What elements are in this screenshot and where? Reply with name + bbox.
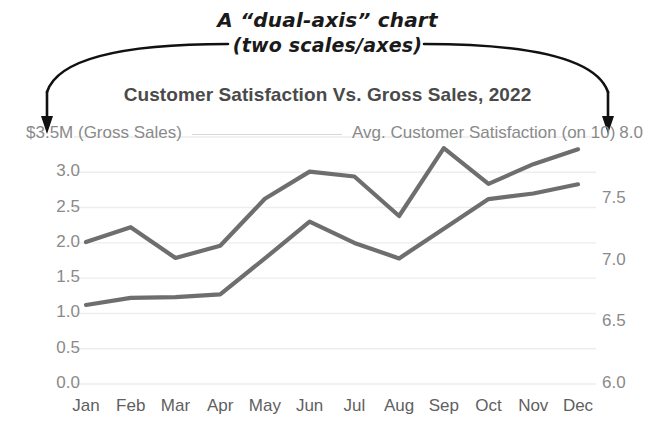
y-axis-left-tick: 3.0 (22, 161, 80, 181)
chart-page: A “dual-axis” chart (two scales/axes) Cu… (0, 0, 655, 442)
y-axis-left-tick: 2.0 (22, 232, 80, 252)
caption-divider (192, 134, 342, 135)
y-axis-left-tick: 1.5 (22, 267, 80, 287)
y-axis-left-tick: 2.5 (22, 197, 80, 217)
left-axis-caption: $3.5M (Gross Sales) (26, 123, 182, 143)
page-title: Customer Satisfaction Vs. Gross Sales, 2… (0, 84, 655, 106)
axis-caption-row: $3.5M (Gross Sales) Avg. Customer Satisf… (26, 120, 643, 146)
right-axis-top-value: 8.0 (619, 123, 643, 143)
y-axis-left-tick: 0.0 (22, 373, 80, 393)
plot-svg (0, 0, 655, 442)
y-axis-right-tick: 7.5 (602, 188, 652, 208)
annotation-text: A “dual-axis” chart (two scales/axes) (0, 8, 655, 58)
y-axis-right-tick: 6.5 (602, 311, 652, 331)
right-axis-caption: Avg. Customer Satisfaction (on 10) (352, 123, 615, 143)
annotation-line-1: A “dual-axis” chart (0, 8, 655, 33)
y-axis-left-tick: 0.5 (22, 338, 80, 358)
annotation-line-2: (two scales/axes) (0, 33, 655, 58)
series-line-gross-sales (86, 184, 578, 305)
y-axis-right-tick: 6.0 (602, 373, 652, 393)
y-axis-right-tick: 7.0 (602, 250, 652, 270)
series-line-satisfaction (86, 148, 578, 258)
plot-area: 3.02.52.01.51.00.50.0 7.57.06.56.0 JanFe… (0, 0, 655, 442)
y-axis-left-tick: 1.0 (22, 302, 80, 322)
x-axis-tick-dec: Dec (552, 396, 604, 416)
